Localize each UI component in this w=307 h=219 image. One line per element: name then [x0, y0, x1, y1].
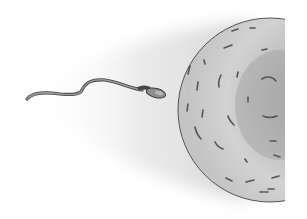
fertilization-illustration: Sperm cell swimming toward an egg cell (…: [0, 0, 307, 219]
